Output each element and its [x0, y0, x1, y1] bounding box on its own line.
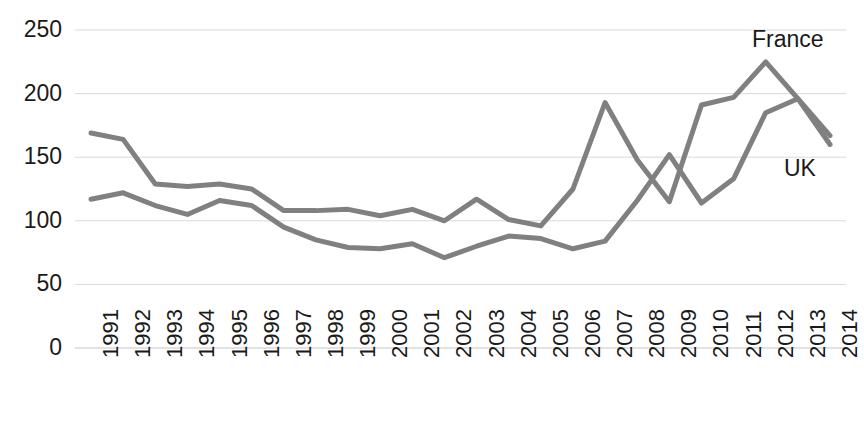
x-axis-tick-label: 1991: [100, 309, 122, 358]
x-axis-tick-label: 1994: [196, 309, 218, 358]
series-line-france: [91, 62, 830, 226]
y-axis-tick-label: 250: [4, 18, 62, 41]
y-axis-tick-label: 50: [4, 272, 62, 295]
x-axis-tick-label: 1998: [325, 309, 347, 358]
x-axis-tick-label: 1992: [132, 309, 154, 358]
x-axis-tick-label: 2008: [646, 309, 668, 358]
x-axis-tick-label: 2005: [550, 309, 572, 358]
y-axis-tick-label: 150: [4, 145, 62, 168]
x-axis-tick-label: 2012: [775, 309, 797, 358]
x-axis-tick-label: 2001: [421, 309, 443, 358]
x-axis-tick-label: 1993: [164, 309, 186, 358]
x-axis-tick-label: 2010: [710, 309, 732, 358]
x-axis-tick-label: 2007: [614, 309, 636, 358]
x-axis-tick-label: 1996: [261, 309, 283, 358]
x-axis-tick-label: 1995: [229, 309, 251, 358]
line-chart: 050100150200250 199119921993199419951996…: [0, 0, 864, 429]
series-line-uk: [91, 99, 830, 258]
x-axis-tick-label: 2006: [582, 309, 604, 358]
y-axis-tick-label: 0: [4, 336, 62, 359]
x-axis-tick-label: 2003: [486, 309, 508, 358]
x-axis-tick-label: 2013: [807, 309, 829, 358]
x-axis-tick-label: 2002: [453, 309, 475, 358]
x-axis-tick-label: 2009: [678, 309, 700, 358]
x-axis-tick-label: 2000: [389, 309, 411, 358]
y-axis-tick-label: 200: [4, 82, 62, 105]
chart-plot-area: [0, 0, 864, 429]
x-axis-tick-label: 2011: [743, 311, 765, 358]
series-lines: [91, 62, 830, 258]
x-axis-tick-label: 1997: [293, 309, 315, 358]
series-label-france: France: [752, 28, 824, 51]
x-axis-tick-label: 1999: [357, 309, 379, 358]
x-axis-tick-label: 2004: [518, 309, 540, 358]
gridlines: [75, 30, 846, 348]
x-axis-tick-label: 2014: [839, 309, 861, 358]
series-label-uk: UK: [784, 157, 816, 180]
y-axis-tick-label: 100: [4, 209, 62, 232]
